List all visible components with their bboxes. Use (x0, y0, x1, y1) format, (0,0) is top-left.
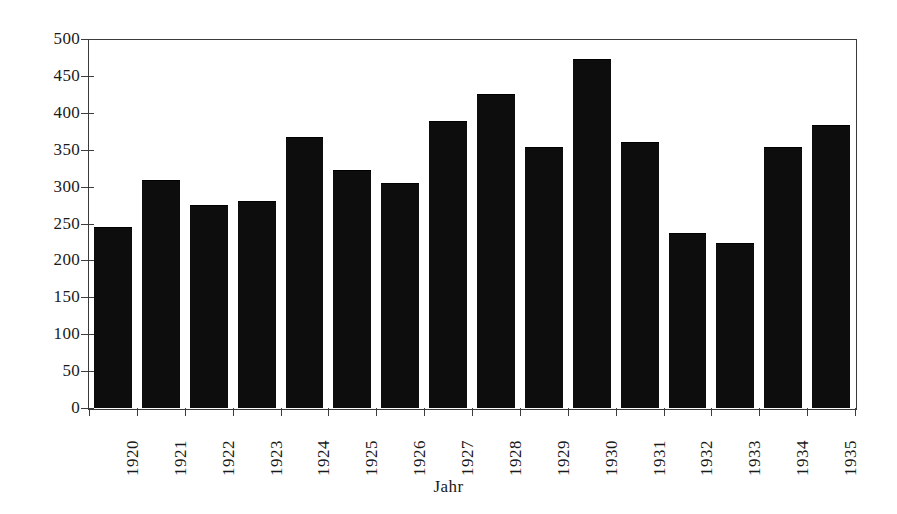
x-tick-mark (711, 408, 712, 416)
x-tick-label: 1929 (555, 440, 572, 476)
x-tick-label: 1934 (794, 440, 811, 476)
bar (525, 147, 563, 409)
bar-slot (281, 40, 329, 408)
bar (429, 121, 467, 408)
x-tick-mark (328, 408, 329, 416)
x-tick-label: 1933 (746, 440, 763, 476)
y-tick-label: 300 (2, 178, 80, 195)
bar (477, 94, 515, 408)
x-tick-label: 1921 (172, 440, 189, 476)
bar (573, 59, 611, 408)
x-tick-mark (376, 408, 377, 416)
bar-chart-figure: 500450400350300250200150100500 192019211… (0, 0, 897, 514)
bar (190, 205, 228, 408)
bar (716, 243, 754, 408)
x-tick-label: 1920 (124, 440, 141, 476)
bar (669, 233, 707, 408)
bar-slot (328, 40, 376, 408)
y-tick-label: 150 (2, 288, 80, 305)
y-tick-label: 250 (2, 215, 80, 232)
bar-slot (137, 40, 185, 408)
x-tick-mark (89, 408, 90, 416)
x-axis-tick-marks (89, 408, 856, 418)
x-tick-mark (185, 408, 186, 416)
bar (812, 125, 850, 408)
bar-slot (807, 40, 855, 408)
bar-slot (185, 40, 233, 408)
bar (94, 227, 132, 408)
x-tick-label: 1932 (698, 440, 715, 476)
x-tick-mark (568, 408, 569, 416)
x-tick-label: 1927 (459, 440, 476, 476)
x-tick-label: 1935 (842, 440, 859, 476)
bar-slot (376, 40, 424, 408)
x-tick-mark (616, 408, 617, 416)
y-axis: 500450400350300250200150100500 (0, 0, 80, 514)
bar-slot (233, 40, 281, 408)
x-tick-label: 1923 (268, 440, 285, 476)
y-tick-label: 450 (2, 67, 80, 84)
x-tick-mark (664, 408, 665, 416)
bar-slot (711, 40, 759, 408)
bar-slot (520, 40, 568, 408)
bar (238, 201, 276, 408)
x-tick-mark (855, 408, 856, 416)
bar (764, 147, 802, 408)
x-tick-label: 1928 (507, 440, 524, 476)
x-tick-mark (520, 408, 521, 416)
x-tick-mark (137, 408, 138, 416)
y-tick-label: 100 (2, 325, 80, 342)
x-tick-mark (807, 408, 808, 416)
bar-slot (664, 40, 712, 408)
x-tick-label: 1930 (603, 440, 620, 476)
bar-slot (568, 40, 616, 408)
x-tick-label: 1922 (220, 440, 237, 476)
x-tick-label: 1924 (315, 440, 332, 476)
x-tick-label: 1925 (363, 440, 380, 476)
bar-series (89, 40, 855, 408)
x-axis-title: Jahr (0, 477, 897, 497)
bar (381, 183, 419, 408)
x-tick-mark (233, 408, 234, 416)
bar (286, 137, 324, 408)
bar (621, 142, 659, 408)
x-tick-mark (281, 408, 282, 416)
y-tick-label: 350 (2, 141, 80, 158)
y-tick-label: 50 (2, 362, 80, 379)
bar (333, 170, 371, 408)
x-axis-tick-labels: 1920192119221923192419251926192719281929… (89, 418, 855, 478)
x-tick-mark (472, 408, 473, 416)
x-tick-label: 1926 (411, 440, 428, 476)
x-tick-label: 1931 (651, 440, 668, 476)
bar (142, 180, 180, 408)
bar-slot (89, 40, 137, 408)
bar-slot (472, 40, 520, 408)
bar-slot (759, 40, 807, 408)
x-tick-mark (424, 408, 425, 416)
x-tick-mark (759, 408, 760, 416)
bar-slot (616, 40, 664, 408)
y-tick-label: 200 (2, 251, 80, 268)
y-tick-label: 0 (2, 399, 80, 416)
y-tick-label: 400 (2, 104, 80, 121)
y-tick-label: 500 (2, 30, 80, 47)
bar-slot (424, 40, 472, 408)
